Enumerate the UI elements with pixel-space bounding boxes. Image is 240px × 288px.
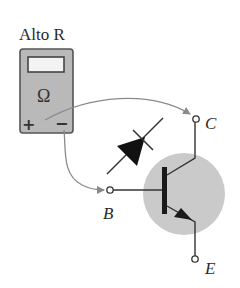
base-label: B — [103, 205, 113, 222]
collector-label: C — [205, 115, 216, 132]
emitter-terminal — [192, 256, 198, 262]
emitter-label: E — [205, 260, 215, 277]
negative-lead-wire — [64, 130, 104, 190]
minus-terminal-label: − — [55, 116, 68, 132]
base-terminal — [107, 187, 113, 193]
base-bar — [162, 167, 167, 214]
meter-display — [28, 57, 64, 72]
plus-terminal-label: + — [22, 117, 35, 133]
transistor-test-diagram: Alto R Ω + − C B E — [0, 0, 240, 288]
meter-title: Alto R — [19, 26, 65, 43]
collector-terminal — [193, 116, 199, 122]
ohm-symbol: Ω — [37, 87, 50, 105]
